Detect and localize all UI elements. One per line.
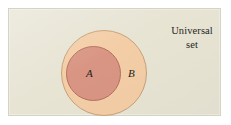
venn-diagram-figure: A B Universal set [0, 0, 231, 125]
set-b-label: B [128, 68, 135, 79]
set-a-label: A [86, 68, 93, 79]
set-a-circle [66, 46, 121, 101]
universal-set-rectangle: A B Universal set [8, 8, 221, 116]
universal-set-label: Universal set [157, 24, 227, 52]
universal-set-label-line-2: set [157, 38, 227, 52]
universal-set-label-line-1: Universal [157, 24, 227, 38]
